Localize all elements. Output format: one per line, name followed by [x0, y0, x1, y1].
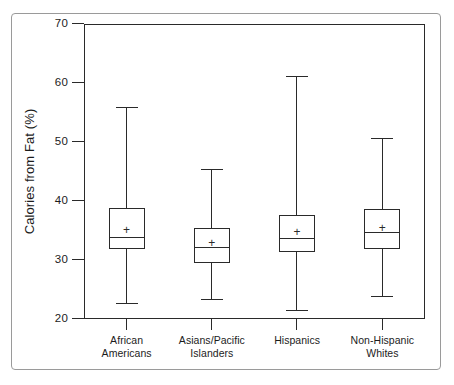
- y-axis-tick-label: 40: [44, 194, 68, 206]
- y-axis-tick-label: 70: [44, 17, 68, 29]
- lower-whisker-line: [126, 249, 127, 304]
- x-axis-tick: [296, 319, 297, 330]
- y-axis-tick: [72, 318, 84, 319]
- lower-whisker-line: [382, 249, 383, 296]
- mean-plus-marker: [293, 228, 302, 237]
- lower-whisker-cap: [286, 310, 308, 311]
- lower-whisker-line: [296, 252, 297, 311]
- upper-whisker-line: [382, 138, 383, 208]
- mean-plus-marker: [122, 226, 131, 235]
- mean-plus-marker: [378, 224, 387, 233]
- y-axis-tick: [72, 141, 84, 142]
- x-axis-tick: [126, 319, 127, 330]
- x-axis-tick-label-line: Islanders: [157, 347, 267, 360]
- upper-whisker-line: [211, 170, 212, 228]
- y-axis-tick-label: 20: [44, 312, 68, 324]
- upper-whisker-cap: [201, 169, 223, 170]
- y-axis-title: Calories from Fat (%): [22, 24, 42, 319]
- x-axis-tick: [382, 319, 383, 330]
- y-axis-tick-label: 50: [44, 135, 68, 147]
- upper-whisker-cap: [116, 107, 138, 108]
- upper-whisker-line: [296, 77, 297, 216]
- x-axis-tick-label: Non-HispanicWhites: [327, 334, 437, 359]
- x-axis-tick: [211, 319, 212, 330]
- mean-plus-marker: [207, 239, 216, 248]
- y-axis-tick: [72, 23, 84, 24]
- plot-area-frame: [84, 24, 425, 319]
- upper-whisker-line: [126, 108, 127, 208]
- y-axis-tick: [72, 82, 84, 83]
- upper-whisker-cap: [286, 76, 308, 77]
- lower-whisker-cap: [371, 296, 393, 297]
- y-axis-tick: [72, 259, 84, 260]
- y-axis-tick: [72, 200, 84, 201]
- x-axis-tick-label-line: Whites: [327, 347, 437, 360]
- lower-whisker-cap: [201, 299, 223, 300]
- box-plot-chart: Calories from Fat (%) 203040506070 Afric…: [0, 0, 454, 385]
- y-axis-tick-label: 60: [44, 76, 68, 88]
- lower-whisker-line: [211, 263, 212, 300]
- x-axis-tick-label-line: Non-Hispanic: [327, 334, 437, 347]
- upper-whisker-cap: [371, 138, 393, 139]
- y-axis-tick-label: 30: [44, 253, 68, 265]
- lower-whisker-cap: [116, 303, 138, 304]
